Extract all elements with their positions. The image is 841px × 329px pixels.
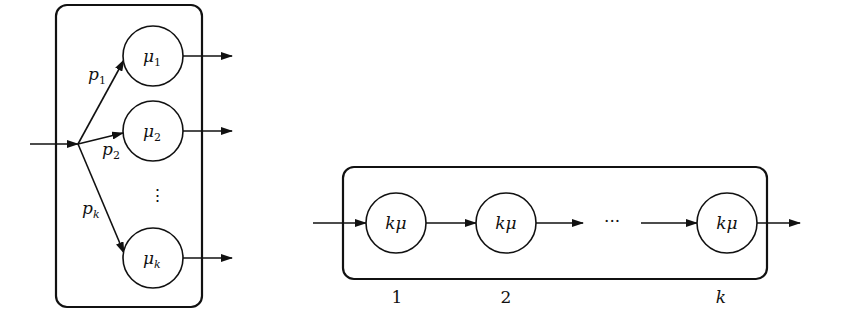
queueing-diagram: μ1 μ2 μk p1 p2 pk ⋮ ··· kμ kμ kμ 1 2 k — [0, 0, 841, 329]
stage-index-1: 1 — [392, 287, 403, 307]
parallel-model: μ1 μ2 μk p1 p2 pk ⋮ — [30, 5, 232, 307]
vertical-ellipsis: ⋮ — [149, 185, 166, 205]
stage-rate-1: kμ — [385, 213, 406, 233]
stage-index-k: k — [716, 287, 726, 307]
branch-prob-2: p2 — [102, 139, 120, 162]
branch-prob-k: pk — [82, 198, 100, 221]
branch-arrow-2 — [78, 133, 123, 144]
branch-prob-1: p1 — [88, 64, 106, 87]
stage-rate-k: kμ — [716, 213, 737, 233]
series-model: ··· kμ kμ kμ 1 2 k — [313, 167, 800, 307]
branch-arrow-1 — [78, 60, 124, 144]
stage-rate-2: kμ — [495, 213, 516, 233]
horizontal-ellipsis: ··· — [604, 211, 620, 231]
stage-index-2: 2 — [501, 287, 512, 307]
